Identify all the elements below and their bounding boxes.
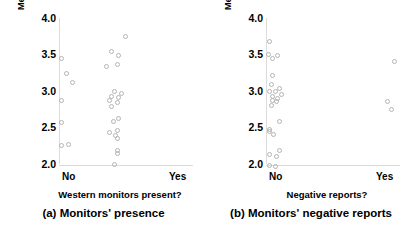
y-axis-ticks-b: 4.0 3.5 3.0 2.5 2.0 <box>229 0 263 236</box>
scatter-point <box>115 62 120 67</box>
scatter-point <box>269 82 274 87</box>
scatter-point <box>273 164 278 169</box>
scatter-point <box>115 100 120 105</box>
x-tick-label-no: No <box>269 171 282 183</box>
scatter-point <box>64 71 69 76</box>
plot-area-b <box>266 18 398 164</box>
scatter-point <box>112 89 117 94</box>
scatter-point <box>269 103 274 108</box>
y-tick-label: 2.0 <box>229 159 263 170</box>
y-tick-label: 3.0 <box>22 86 56 97</box>
scatter-point <box>107 98 112 103</box>
scatter-point <box>267 89 272 94</box>
scatter-point <box>109 49 114 54</box>
plot-area-a <box>59 18 191 164</box>
scatter-point <box>270 73 275 78</box>
scatter-point <box>267 163 272 168</box>
scatter-point <box>104 64 109 69</box>
y-axis-ticks-a: 4.0 3.5 3.0 2.5 2.0 <box>22 0 56 236</box>
scatter-point <box>109 104 114 109</box>
scatter-point <box>115 136 120 141</box>
x-tick-label-no: No <box>62 171 75 183</box>
scatter-point <box>275 53 280 58</box>
x-tick-label-yes: Yes <box>169 171 186 183</box>
y-tick-label: 3.0 <box>229 86 263 97</box>
y-tick-label: 2.5 <box>22 122 56 133</box>
scatter-point <box>270 56 275 61</box>
scatter-point <box>277 119 282 124</box>
scatter-point <box>115 151 120 156</box>
scatter-point <box>277 148 282 153</box>
scatter-point <box>70 80 75 85</box>
scatter-point <box>274 99 279 104</box>
scatter-point <box>59 143 64 148</box>
x-axis-title-a: Western monitors present? <box>38 189 202 200</box>
scatter-point <box>112 162 117 167</box>
scatter-point <box>279 92 284 97</box>
scatter-point <box>267 152 272 157</box>
x-axis-line-a <box>59 165 193 166</box>
y-tick-label: 4.0 <box>22 13 56 24</box>
scatter-point <box>59 98 64 103</box>
x-axis-title-b: Negative reports? <box>245 189 409 200</box>
x-axis-line-b <box>266 165 400 166</box>
y-tick-label: 4.0 <box>229 13 263 24</box>
panel-monitors-presence: Mean perceived credibility 4.0 3.5 3.0 2… <box>0 0 207 236</box>
scatter-point <box>389 107 394 112</box>
scatter-point <box>267 39 272 44</box>
y-tick-label: 3.5 <box>22 49 56 60</box>
scatter-point <box>59 120 64 125</box>
scatter-point <box>59 56 64 61</box>
panel-caption-a: (a) Monitors' presence <box>0 207 207 219</box>
scatter-point <box>116 53 121 58</box>
scatter-point <box>123 34 128 39</box>
scatter-point <box>392 59 397 64</box>
scatter-point <box>274 154 279 159</box>
scatter-figure: Mean perceived credibility 4.0 3.5 3.0 2… <box>0 0 415 236</box>
panel-monitors-negative-reports: Mean perceived credibility 4.0 3.5 3.0 2… <box>207 0 414 236</box>
y-tick-label: 2.0 <box>22 159 56 170</box>
scatter-point <box>107 130 112 135</box>
scatter-point <box>385 99 390 104</box>
y-tick-label: 3.5 <box>229 49 263 60</box>
scatter-point <box>66 142 71 147</box>
x-tick-label-yes: Yes <box>376 171 393 183</box>
scatter-point <box>271 132 276 137</box>
y-tick-label: 2.5 <box>229 122 263 133</box>
scatter-point <box>111 119 116 124</box>
panel-caption-b: (b) Monitors' negative reports <box>207 207 415 219</box>
scatter-point <box>116 116 121 121</box>
